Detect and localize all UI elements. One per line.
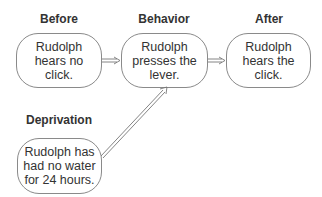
arrow-before-to-behavior xyxy=(102,57,120,64)
arrow-behavior-to-after xyxy=(208,57,225,64)
arrows-layer xyxy=(0,0,322,197)
arrow-deprivation-to-behavior xyxy=(101,87,167,158)
